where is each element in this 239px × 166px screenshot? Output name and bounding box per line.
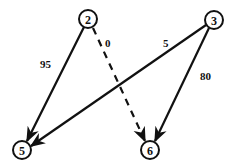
edge-weight-2-6: 0	[105, 37, 111, 49]
node-label: 5	[19, 144, 25, 158]
node-2: 2	[79, 10, 97, 28]
node-label: 3	[211, 14, 217, 28]
node-3: 3	[205, 11, 223, 29]
edge-weight-2-5: 95	[40, 58, 52, 70]
node-5: 5	[13, 141, 31, 159]
edge-weight-3-6: 80	[200, 70, 212, 82]
edge-2-5	[27, 27, 84, 141]
node-label: 6	[147, 144, 153, 158]
node-6: 6	[141, 141, 159, 159]
edge-weight-3-5: 5	[163, 37, 169, 49]
graph-diagram: 95 0 5 80 2 3 5 6	[0, 0, 239, 166]
edge-3-5	[31, 25, 206, 146]
node-label: 2	[85, 13, 91, 27]
